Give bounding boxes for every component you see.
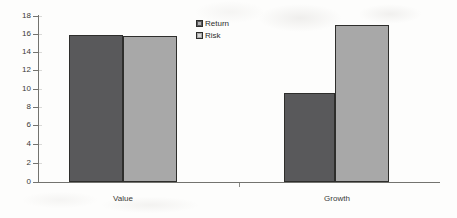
y-tick-label: 8 [5,103,31,111]
y-tick-label: 18 [5,12,31,20]
chart-legend: Return Risk [196,18,229,40]
bar-value-return [69,35,123,182]
bar-chart: 18 16 14 12 10 8 6 [0,0,457,218]
legend-label-risk: Risk [205,31,221,40]
legend-item-risk: Risk [196,30,229,40]
x-tick-mark-midpoint [239,183,240,187]
x-tick-label-value: Value [93,194,153,203]
legend-label-return: Return [205,19,229,28]
y-gridline-stub [39,144,42,145]
x-tick-label-growth: Growth [307,194,367,203]
y-gridline-stub [39,34,42,35]
y-tick-label: 4 [5,140,31,148]
y-gridline-stub [39,107,42,108]
y-tick-label: 0 [5,178,31,186]
y-gridline-stub [39,125,42,126]
y-tick-label: 10 [5,85,31,93]
legend-swatch-risk-icon [196,32,203,39]
y-tick-label: 6 [5,121,31,129]
y-gridline-stub [39,52,42,53]
y-gridline-stub [39,163,42,164]
y-gridline-stub [39,16,42,17]
legend-swatch-return-icon [196,20,203,27]
y-gridline-stub [39,70,42,71]
y-axis-line [38,15,39,183]
y-tick-label: 12 [5,66,31,74]
bar-value-risk [123,36,177,182]
y-gridline-stub [39,89,42,90]
bar-growth-return [284,93,335,182]
bar-growth-risk [335,25,389,182]
legend-item-return: Return [196,18,229,28]
y-tick-label: 16 [5,30,31,38]
y-tick-label: 2 [5,159,31,167]
y-tick-label: 14 [5,48,31,56]
